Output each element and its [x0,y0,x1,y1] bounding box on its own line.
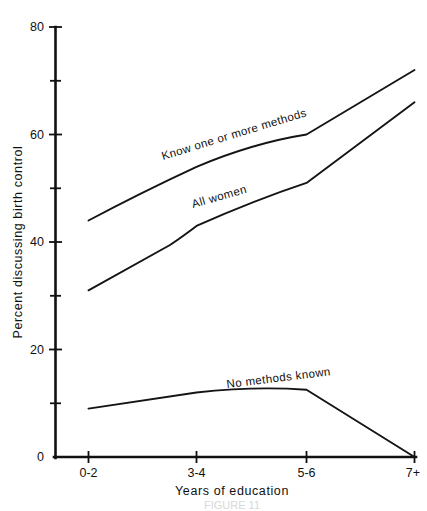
line-chart: 80 60 40 20 0 0-2 3-4 5-6 7+ Years of ed… [0,0,427,511]
y-tick-label-60: 60 [30,128,44,142]
y-tick-label-40: 40 [30,235,44,249]
y-tick-label-20: 20 [30,343,44,357]
series-line-no-methods [89,388,415,457]
figure-caption: FIGURE 11 [204,499,260,511]
series-label-all-women: All women [190,183,248,210]
y-tick-label-0: 0 [37,450,44,464]
y-tick-label-80: 80 [30,20,44,34]
x-axis-title: Years of education [175,484,289,498]
series-line-know-methods [89,70,415,221]
axes-group [54,27,416,458]
x-tick-label-0-2: 0-2 [79,466,97,480]
x-tick-label-5-6: 5-6 [297,466,315,480]
x-tick-label-3-4: 3-4 [187,466,205,480]
chart-figure: 80 60 40 20 0 0-2 3-4 5-6 7+ Years of ed… [0,0,427,511]
series-label-no-methods: No methods known [226,365,332,390]
x-tick-labels-group: 0-2 3-4 5-6 7+ [79,466,420,480]
x-tick-label-7-plus: 7+ [406,466,420,480]
y-tick-labels-group: 80 60 40 20 0 [30,20,44,464]
y-axis-title: Percent discussing birth control [11,146,25,339]
